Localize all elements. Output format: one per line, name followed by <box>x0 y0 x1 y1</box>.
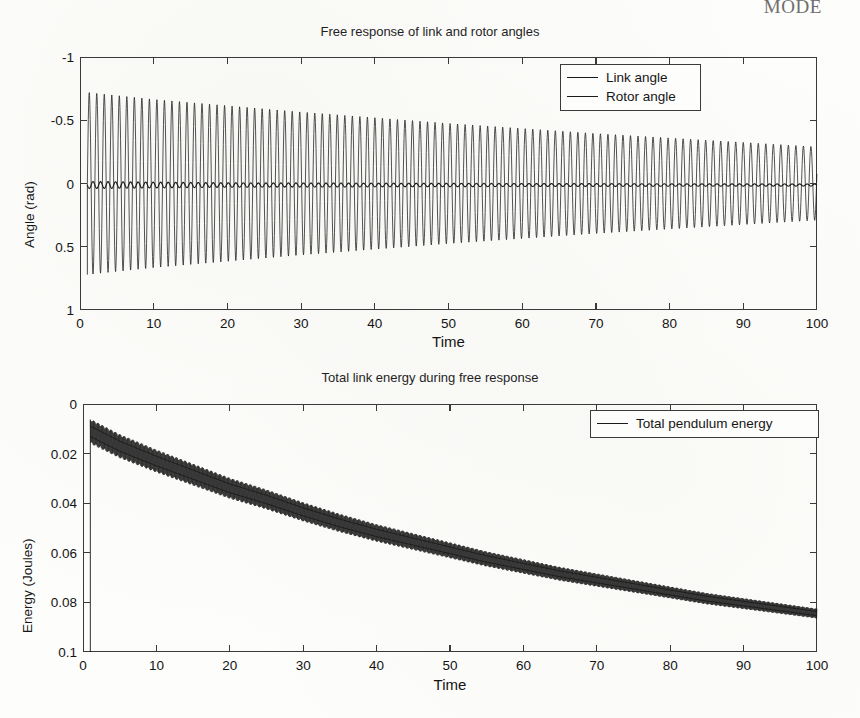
chart-title-energy: Total link energy during free response <box>0 370 860 385</box>
x-axis-tick <box>596 645 597 652</box>
x-axis-tick <box>376 645 377 652</box>
x-axis-tick-label: 0 <box>79 658 87 673</box>
angles-signal-canvas <box>80 57 817 310</box>
x-axis-tick-label: 70 <box>588 316 603 331</box>
x-axis-tick-label: 70 <box>589 658 604 673</box>
x-axis-tick <box>595 303 596 310</box>
x-axis-tick <box>448 303 449 310</box>
x-axis-tick <box>743 645 744 652</box>
legend-line-icon <box>567 96 598 97</box>
legend-label: Total pendulum energy <box>636 416 773 431</box>
x-axis-tick-top <box>376 404 377 411</box>
legend-item-total-pendulum-energy[interactable]: Total pendulum energy <box>597 414 810 433</box>
y-axis-tick-right <box>810 503 817 504</box>
legend-line-icon <box>567 77 598 78</box>
y-axis-tick-label: 0 <box>32 176 74 191</box>
x-axis-tick-label: 90 <box>736 316 751 331</box>
y-axis-tick-label: 1 <box>32 303 74 318</box>
x-axis-tick <box>449 645 450 652</box>
y-axis-tick <box>83 602 90 603</box>
y-axis-tick-right <box>810 246 817 247</box>
x-axis-tick-label: 80 <box>663 658 678 673</box>
y-axis-tick-label: 0.02 <box>35 446 77 461</box>
x-axis-tick <box>303 645 304 652</box>
legend-angles[interactable]: Link angle Rotor angle <box>560 64 701 111</box>
y-axis-tick-label: 0.08 <box>35 595 77 610</box>
y-axis-tick <box>80 246 87 247</box>
x-axis-tick-label: 60 <box>515 316 530 331</box>
total-pendulum-energy-trace <box>90 419 817 618</box>
legend-item-link-angle[interactable]: Link angle <box>567 68 692 87</box>
x-axis-tick-label: 20 <box>222 658 237 673</box>
y-axis-tick-label: 0.06 <box>35 545 77 560</box>
chart-title-angles: Free response of link and rotor angles <box>0 24 860 39</box>
x-axis-tick-top <box>229 404 230 411</box>
x-axis-label-angles: Time <box>80 333 817 350</box>
x-axis-tick-label: 0 <box>76 316 84 331</box>
x-axis-tick-top <box>448 57 449 64</box>
x-axis-tick <box>153 303 154 310</box>
x-axis-tick-label: 10 <box>149 658 164 673</box>
y-axis-tick-label: -1 <box>32 50 74 65</box>
y-axis-label-energy: Energy (Joules) <box>20 538 35 633</box>
x-axis-tick-label: 50 <box>442 658 457 673</box>
x-axis-tick-label: 30 <box>296 658 311 673</box>
x-axis-tick-top <box>595 57 596 64</box>
x-axis-tick-top <box>303 404 304 411</box>
x-axis-tick <box>229 645 230 652</box>
energy-upper-core <box>90 426 817 611</box>
x-axis-tick <box>743 303 744 310</box>
x-axis-tick <box>374 303 375 310</box>
x-axis-tick <box>669 303 670 310</box>
x-axis-tick-top <box>227 57 228 64</box>
y-axis-tick-right <box>810 602 817 603</box>
x-axis-tick <box>301 303 302 310</box>
y-axis-tick-right <box>810 183 817 184</box>
energy-lower-core <box>90 436 817 615</box>
energy-signal-canvas <box>83 404 817 652</box>
x-axis-tick-label: 10 <box>146 316 161 331</box>
x-axis-tick-top <box>374 57 375 64</box>
x-axis-tick-top <box>596 404 597 411</box>
y-axis-tick-right <box>810 120 817 121</box>
running-head: MODE <box>0 0 860 18</box>
y-axis-tick <box>83 453 90 454</box>
x-axis-tick-label: 40 <box>367 316 382 331</box>
y-axis-tick-label: 0.1 <box>35 645 77 660</box>
x-axis-tick-top <box>523 404 524 411</box>
x-axis-tick-top <box>449 404 450 411</box>
x-axis-tick-label: 90 <box>736 658 751 673</box>
y-axis-tick <box>80 120 87 121</box>
x-axis-tick-label: 100 <box>806 658 829 673</box>
x-axis-tick-label: 50 <box>441 316 456 331</box>
x-axis-label-energy: Time <box>83 676 817 693</box>
legend-item-rotor-angle[interactable]: Rotor angle <box>567 87 692 106</box>
x-axis-tick <box>156 645 157 652</box>
y-axis-tick-label: -0.5 <box>32 113 74 128</box>
x-axis-tick-top <box>670 404 671 411</box>
y-axis-tick-label: 0 <box>35 397 77 412</box>
y-axis-label-angles: Angle (rad) <box>22 181 37 248</box>
x-axis-tick-label: 20 <box>220 316 235 331</box>
x-axis-tick-top <box>522 57 523 64</box>
x-axis-tick <box>523 645 524 652</box>
y-axis-tick-right <box>810 453 817 454</box>
x-axis-tick <box>670 645 671 652</box>
legend-label: Link angle <box>606 70 668 85</box>
x-axis-tick <box>522 303 523 310</box>
legend-label: Rotor angle <box>606 89 676 104</box>
x-axis-tick-top <box>301 57 302 64</box>
x-axis-tick-top <box>153 57 154 64</box>
x-axis-tick-label: 30 <box>294 316 309 331</box>
legend-energy[interactable]: Total pendulum energy <box>590 410 819 438</box>
x-axis-tick-top <box>669 57 670 64</box>
y-axis-tick-label: 0.04 <box>35 496 77 511</box>
figure-total-link-energy: Total link energy during free response E… <box>0 365 860 710</box>
x-axis-tick-top <box>156 404 157 411</box>
figure-free-response-angles: Free response of link and rotor angles A… <box>0 18 860 360</box>
y-axis-tick-right <box>810 552 817 553</box>
y-axis-tick <box>80 183 87 184</box>
x-axis-tick-label: 100 <box>806 316 829 331</box>
x-axis-tick-label: 60 <box>516 658 531 673</box>
x-axis-tick-label: 40 <box>369 658 384 673</box>
